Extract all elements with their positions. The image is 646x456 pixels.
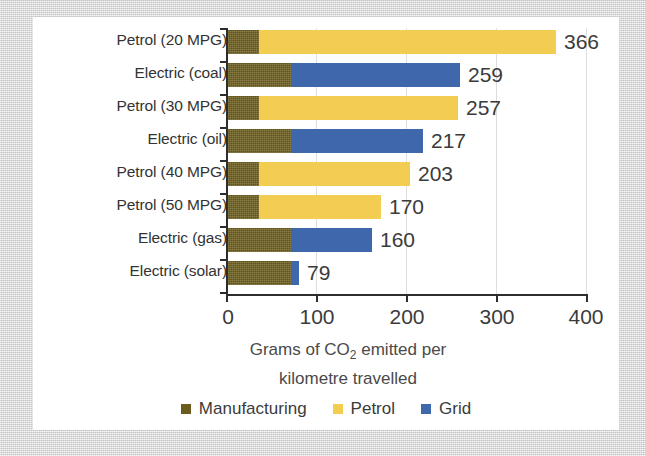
x-axis-tick [586, 294, 588, 302]
category-label: Petrol (40 MPG) [42, 163, 227, 181]
bar-segment-grid[interactable] [291, 63, 460, 87]
bar-segment-manufacturing[interactable] [228, 96, 259, 120]
category-label: Electric (solar) [42, 262, 227, 280]
bar-segment-petrol[interactable] [259, 96, 458, 120]
x-axis-tick [496, 294, 498, 302]
bar-value-label: 79 [307, 261, 330, 285]
legend-swatch-icon [421, 404, 431, 414]
x-axis-tick-label: 300 [479, 305, 514, 329]
x-axis-tick-label: 0 [222, 305, 234, 329]
x-axis-title: Grams of CO2 emitted perkilometre travel… [183, 338, 513, 390]
bar-value-label: 366 [564, 30, 599, 54]
bar-segment-manufacturing[interactable] [228, 30, 259, 54]
y-axis-tick [220, 61, 228, 63]
bar-segment-petrol[interactable] [259, 30, 556, 54]
x-axis-tick-label: 200 [389, 305, 424, 329]
bar-segment-manufacturing[interactable] [228, 195, 259, 219]
y-axis-tick [220, 94, 228, 96]
legend-label: Manufacturing [199, 399, 307, 419]
category-label: Petrol (30 MPG) [42, 97, 227, 115]
bar-value-label: 217 [431, 129, 466, 153]
y-axis-tick [220, 193, 228, 195]
y-axis-tick [220, 127, 228, 129]
x-axis-tick [226, 294, 228, 302]
legend-item-manufacturing[interactable]: Manufacturing [181, 399, 307, 419]
category-label: Petrol (20 MPG) [42, 31, 227, 49]
x-axis-title-part: Grams of CO [250, 340, 350, 359]
category-label: Petrol (50 MPG) [42, 196, 227, 214]
x-axis-title-part: emitted per [357, 340, 447, 359]
bar-segment-manufacturing[interactable] [228, 261, 291, 285]
x-axis-tick [406, 294, 408, 302]
bar-value-label: 203 [418, 162, 453, 186]
legend-swatch-icon [333, 404, 343, 414]
bar-segment-manufacturing[interactable] [228, 228, 291, 252]
bar-segment-manufacturing[interactable] [228, 129, 291, 153]
legend-item-grid[interactable]: Grid [421, 399, 471, 419]
legend: Manufacturing Petrol Grid [33, 399, 619, 419]
y-axis-tick [220, 259, 228, 261]
legend-swatch-icon [181, 404, 191, 414]
y-axis-tick [220, 160, 228, 162]
category-label: Electric (coal) [42, 64, 227, 82]
bar-segment-petrol[interactable] [259, 162, 410, 186]
category-label: Electric (oil) [42, 130, 227, 148]
bar-segment-grid[interactable] [291, 129, 423, 153]
x-axis-tick-label: 100 [299, 305, 334, 329]
bar-value-label: 257 [466, 96, 501, 120]
y-axis-tick [220, 226, 228, 228]
gridline [586, 28, 587, 294]
chart-panel: Petrol (20 MPG) Electric (coal) Petrol (… [33, 17, 619, 430]
plot-area: Petrol (20 MPG) Electric (coal) Petrol (… [33, 17, 619, 430]
x-axis-title-subscript: 2 [350, 348, 357, 362]
legend-label: Grid [439, 399, 471, 419]
bar-segment-petrol[interactable] [259, 195, 381, 219]
x-axis-title-line2: kilometre travelled [279, 369, 417, 388]
x-axis-tick [316, 294, 318, 302]
legend-item-petrol[interactable]: Petrol [333, 399, 395, 419]
bar-segment-manufacturing[interactable] [228, 162, 259, 186]
y-axis-tick [220, 28, 228, 30]
legend-label: Petrol [351, 399, 395, 419]
bar-value-label: 259 [468, 63, 503, 87]
bar-segment-manufacturing[interactable] [228, 63, 291, 87]
bar-segment-grid[interactable] [291, 261, 299, 285]
x-axis-tick-label: 400 [568, 305, 603, 329]
bar-segment-grid[interactable] [291, 228, 372, 252]
category-label: Electric (gas) [42, 229, 227, 247]
bar-value-label: 170 [389, 195, 424, 219]
bar-value-label: 160 [380, 228, 415, 252]
